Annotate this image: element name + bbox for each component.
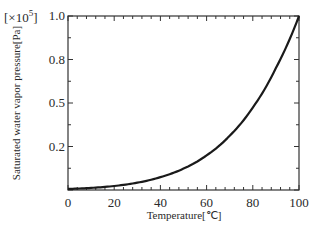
vapor-pressure-chart: [×105] Saturated water vapor pressure[Pa…	[0, 0, 324, 235]
y-axis-title: Saturated water vapor pressure[Pa]	[10, 26, 22, 180]
y-multiplier-label: [×105]	[4, 8, 38, 25]
y-tick-label: 0.8	[49, 52, 65, 67]
x-tick-label: 100	[289, 195, 309, 210]
x-tick-label: 0	[65, 195, 72, 210]
y-tick-label: 0.2	[49, 139, 65, 154]
x-tick-label: 40	[154, 195, 167, 210]
x-tick-label: 80	[246, 195, 259, 210]
plot-frame	[68, 16, 299, 190]
x-tick-label: 60	[200, 195, 213, 210]
plot-area: 0204060801000.20.50.81.0	[49, 8, 309, 210]
y-tick-label: 0.5	[49, 95, 65, 110]
x-tick-label: 20	[108, 195, 121, 210]
y-tick-label: 1.0	[49, 8, 65, 23]
x-axis-title: Temperature[℃]	[147, 209, 222, 221]
vapor-pressure-curve	[68, 16, 299, 189]
